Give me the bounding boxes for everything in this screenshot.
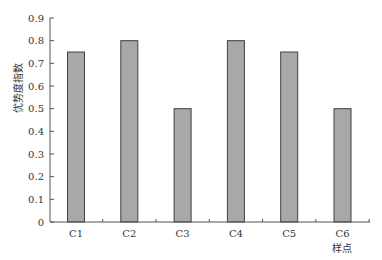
bar-chart: 00.10.20.30.40.50.60.70.80.9 C1C2C3C4C5C… (0, 0, 382, 260)
x-tick-label: C4 (229, 228, 243, 239)
y-tick-label: 0 (38, 217, 44, 228)
y-tick-label: 0.1 (28, 194, 44, 205)
y-tick-label: 0.4 (28, 126, 44, 137)
x-tick-label: C1 (69, 228, 83, 239)
y-tick-label: 0.8 (28, 35, 44, 46)
y-tick-label: 0.3 (28, 149, 44, 160)
bar-c2 (121, 41, 138, 222)
y-tick-label: 0.9 (28, 13, 44, 24)
bar-c4 (227, 41, 244, 222)
y-tick-label: 0.5 (28, 103, 44, 114)
x-tick-label: C3 (176, 228, 190, 239)
bar-c3 (174, 109, 191, 222)
x-tick-label: C2 (122, 228, 136, 239)
bar-c5 (281, 52, 298, 222)
bar-c1 (68, 52, 85, 222)
y-tick-label: 0.6 (28, 81, 44, 92)
x-tick-label: C5 (282, 228, 296, 239)
y-axis-title: 优势度指数 (12, 63, 24, 113)
y-tick-label: 0.7 (28, 58, 44, 69)
bars (68, 41, 352, 222)
bar-c6 (334, 109, 351, 222)
x-tick-label: C6 (335, 228, 349, 239)
y-tick-label: 0.2 (28, 171, 44, 182)
x-axis-title: 样点 (332, 242, 352, 254)
